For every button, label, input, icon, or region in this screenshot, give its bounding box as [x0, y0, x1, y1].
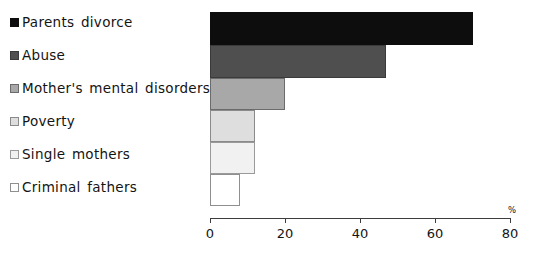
axis-tick-label: 0	[206, 226, 214, 241]
legend-swatch-icon	[10, 117, 19, 126]
legend-item-label: Single mothers	[22, 147, 130, 161]
axis-tick-label: 40	[352, 226, 369, 241]
legend-item-label: Abuse	[22, 48, 65, 62]
legend-item-label: Poverty	[22, 114, 75, 128]
axis-tick	[435, 218, 436, 223]
chart-legend: Parents divorce Abuse Mother's mental di…	[10, 0, 210, 210]
plot-area	[210, 12, 512, 206]
legend-item-mothers-mental-disorders: Mother's mental disorders	[10, 80, 210, 96]
axis-tick	[285, 218, 286, 223]
axis-unit-label: %	[508, 205, 516, 215]
legend-item-abuse: Abuse	[10, 47, 65, 63]
axis-tick	[210, 218, 211, 223]
legend-item-label: Mother's mental disorders	[22, 81, 210, 95]
x-axis: 020406080 %	[210, 218, 512, 254]
legend-item-single-mothers: Single mothers	[10, 146, 130, 162]
bar-criminal-fathers	[210, 174, 240, 206]
bar-parents-divorce	[210, 12, 473, 45]
bar-abuse	[210, 45, 386, 78]
bar-poverty	[210, 110, 255, 142]
legend-swatch-icon	[10, 18, 19, 27]
axis-tick-label: 80	[502, 226, 519, 241]
legend-item-poverty: Poverty	[10, 113, 75, 129]
bar-chart: Parents divorce Abuse Mother's mental di…	[0, 0, 536, 255]
legend-item-label: Parents divorce	[22, 15, 133, 29]
axis-tick	[360, 218, 361, 223]
legend-item-parents-divorce: Parents divorce	[10, 14, 133, 30]
bar-single-mothers	[210, 142, 255, 174]
legend-swatch-icon	[10, 150, 19, 159]
bar-mothers-mental-disorders	[210, 78, 285, 110]
legend-swatch-icon	[10, 51, 19, 60]
legend-item-criminal-fathers: Criminal fathers	[10, 179, 137, 195]
axis-tick	[510, 218, 511, 223]
legend-swatch-icon	[10, 183, 19, 192]
axis-tick-label: 60	[427, 226, 444, 241]
legend-item-label: Criminal fathers	[22, 180, 137, 194]
legend-swatch-icon	[10, 84, 19, 93]
axis-tick-label: 20	[277, 226, 294, 241]
